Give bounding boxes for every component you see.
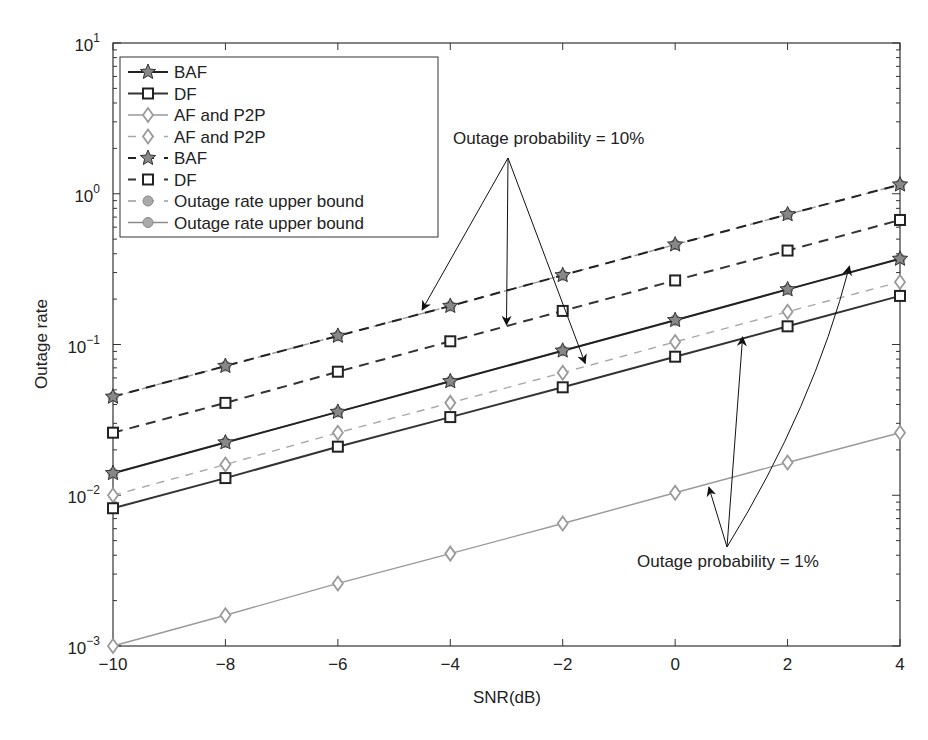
data-point bbox=[895, 215, 905, 225]
outage-rate-chart: −10−8−6−4−202410110010−110−210−3 Outage … bbox=[0, 0, 928, 740]
data-point bbox=[108, 639, 118, 653]
data-point bbox=[445, 396, 455, 410]
data-point bbox=[333, 426, 343, 440]
y-tick-exponent: −1 bbox=[86, 333, 100, 347]
data-point bbox=[783, 321, 793, 331]
data-point bbox=[108, 503, 118, 513]
y-tick-label: 10−1 bbox=[67, 333, 100, 357]
y-tick-base: 10 bbox=[67, 488, 86, 507]
legend-marker bbox=[143, 196, 153, 206]
data-point bbox=[783, 305, 793, 319]
annotation-text: Outage probability = 10% bbox=[453, 129, 644, 148]
legend-marker bbox=[143, 175, 153, 185]
data-point bbox=[783, 455, 793, 469]
legend-item: AF and P2P bbox=[128, 128, 266, 147]
y-tick-label: 10−2 bbox=[67, 483, 100, 507]
x-tick-label: −2 bbox=[553, 655, 572, 674]
legend-label: Outage rate upper bound bbox=[174, 214, 364, 233]
legend-label: AF and P2P bbox=[174, 128, 266, 147]
data-point bbox=[670, 486, 680, 500]
data-point bbox=[895, 426, 905, 440]
legend-marker bbox=[143, 89, 153, 99]
data-point bbox=[670, 352, 680, 362]
legend-label: DF bbox=[174, 171, 197, 190]
data-point bbox=[445, 547, 455, 561]
annotation-text: Outage probability = 1% bbox=[637, 552, 819, 571]
y-tick-base: 10 bbox=[67, 338, 86, 357]
x-tick-label: 0 bbox=[670, 655, 679, 674]
legend-label: BAF bbox=[174, 149, 207, 168]
data-point bbox=[558, 366, 568, 380]
x-tick-label: −10 bbox=[99, 655, 128, 674]
y-tick-base: 10 bbox=[67, 639, 86, 658]
data-point bbox=[895, 275, 905, 289]
y-tick-exponent: −2 bbox=[86, 483, 100, 497]
data-point bbox=[220, 398, 230, 408]
data-point bbox=[895, 291, 905, 301]
y-tick-base: 10 bbox=[74, 187, 93, 206]
x-tick-label: −6 bbox=[328, 655, 347, 674]
data-point bbox=[783, 246, 793, 256]
y-tick-exponent: −3 bbox=[86, 634, 100, 648]
data-point bbox=[670, 275, 680, 285]
x-tick-label: 2 bbox=[783, 655, 792, 674]
annotation-arrow bbox=[508, 158, 585, 363]
data-point bbox=[445, 336, 455, 346]
data-point bbox=[220, 457, 230, 471]
annotation-arrow bbox=[507, 158, 509, 325]
data-point bbox=[558, 382, 568, 392]
y-tick-exponent: 1 bbox=[93, 31, 100, 45]
y-tick-label: 101 bbox=[74, 31, 100, 55]
data-point bbox=[333, 442, 343, 452]
annotation-arrow bbox=[709, 487, 727, 547]
data-point bbox=[670, 335, 680, 349]
y-tick-label: 10−3 bbox=[67, 634, 100, 658]
x-tick-label: 4 bbox=[895, 655, 904, 674]
x-tick-label: −4 bbox=[441, 655, 460, 674]
data-point bbox=[108, 488, 118, 502]
data-point bbox=[445, 412, 455, 422]
data-point bbox=[558, 306, 568, 316]
legend-label: Outage rate upper bound bbox=[174, 192, 364, 211]
x-tick-label: −8 bbox=[216, 655, 235, 674]
y-tick-label: 100 bbox=[74, 182, 100, 206]
legend-marker bbox=[143, 218, 153, 228]
data-point bbox=[333, 367, 343, 377]
data-point bbox=[558, 516, 568, 530]
legend-label: BAF bbox=[174, 63, 207, 82]
data-point bbox=[220, 473, 230, 483]
data-point bbox=[108, 428, 118, 438]
x-axis-label: SNR(dB) bbox=[473, 688, 541, 707]
data-point bbox=[220, 608, 230, 622]
legend-item: AF and P2P bbox=[128, 106, 266, 125]
y-axis-label: Outage rate bbox=[32, 299, 51, 389]
y-tick-exponent: 0 bbox=[93, 182, 100, 196]
y-tick-base: 10 bbox=[74, 36, 93, 55]
legend-label: AF and P2P bbox=[174, 106, 266, 125]
annotation-arrow bbox=[727, 337, 743, 547]
legend-label: DF bbox=[174, 85, 197, 104]
data-point bbox=[333, 576, 343, 590]
